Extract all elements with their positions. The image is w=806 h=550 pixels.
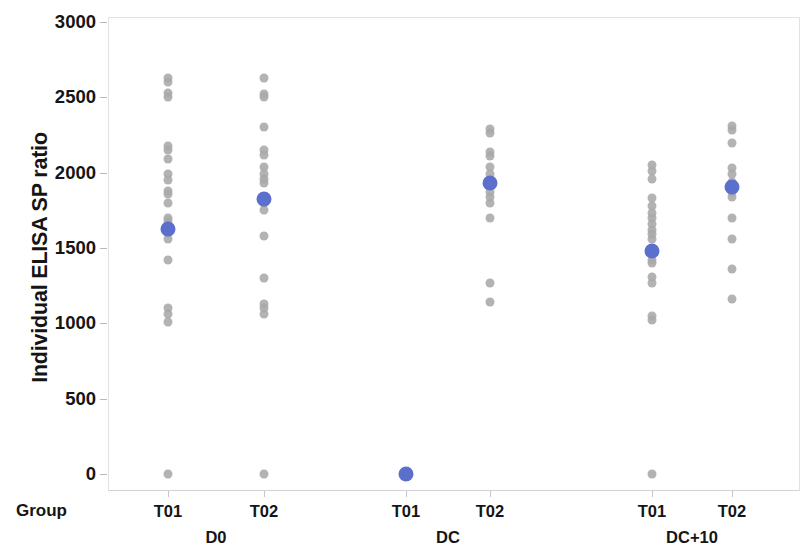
x-axis-group-label: DC+10 (666, 528, 718, 547)
x-axis-tick-label: T01 (638, 502, 666, 521)
x-axis-tick-mark (490, 491, 491, 497)
data-point-individual (164, 470, 173, 479)
y-axis-tick-label: 3000 (6, 11, 96, 33)
data-point-individual (260, 206, 269, 215)
data-point-individual (260, 123, 269, 132)
y-axis-tick-label: 1000 (6, 312, 96, 334)
data-point-individual (260, 470, 269, 479)
data-point-individual (648, 470, 657, 479)
data-point-mean (645, 244, 660, 259)
plot-area-frame (108, 17, 800, 491)
y-axis-tick-label: 2500 (6, 86, 96, 108)
scatter-plot-figure: Individual ELISA SP ratio 05001000150020… (0, 0, 806, 550)
y-axis-tick-mark (100, 22, 107, 23)
data-point-individual (648, 316, 657, 325)
x-axis-group-label: D0 (205, 528, 226, 547)
data-point-individual (648, 259, 657, 268)
y-axis-tick-label: 1500 (6, 237, 96, 259)
y-axis-tick-mark (100, 248, 107, 249)
data-point-individual (164, 317, 173, 326)
y-axis-tick-mark (100, 323, 107, 324)
data-point-individual (164, 256, 173, 265)
x-axis-tick-label: T02 (476, 502, 504, 521)
x-axis-tick-mark (168, 491, 169, 497)
y-axis-tick-mark (100, 97, 107, 98)
data-point-individual (728, 234, 737, 243)
data-point-individual (648, 234, 657, 243)
data-point-individual (260, 231, 269, 240)
data-point-individual (728, 213, 737, 222)
x-axis-tick-mark (732, 491, 733, 497)
data-point-individual (728, 138, 737, 147)
data-point-individual (486, 278, 495, 287)
x-axis-tick-label: T02 (718, 502, 746, 521)
y-axis-tick-mark (100, 474, 107, 475)
data-point-individual (486, 152, 495, 161)
data-point-individual (260, 179, 269, 188)
data-point-individual (260, 310, 269, 319)
data-point-individual (164, 146, 173, 155)
data-point-mean (257, 192, 272, 207)
data-point-individual (728, 126, 737, 135)
data-point-individual (728, 265, 737, 274)
data-point-individual (260, 93, 269, 102)
y-axis-tick-mark (100, 173, 107, 174)
y-axis-tick-label: 0 (6, 463, 96, 485)
y-axis-tick-label: 2000 (6, 162, 96, 184)
data-point-individual (648, 278, 657, 287)
data-point-mean (161, 221, 176, 236)
y-axis-tick-label: 500 (6, 388, 96, 410)
data-point-mean (483, 176, 498, 191)
data-point-individual (728, 295, 737, 304)
data-point-individual (648, 174, 657, 183)
data-point-individual (164, 189, 173, 198)
x-axis-group-label: DC (436, 528, 460, 547)
data-point-individual (260, 274, 269, 283)
axis-row-label-group: Group (16, 501, 67, 521)
x-axis-tick-label: T01 (392, 502, 420, 521)
data-point-individual (164, 78, 173, 87)
x-axis-tick-label: T02 (250, 502, 278, 521)
data-point-individual (486, 298, 495, 307)
x-axis-tick-label: T01 (154, 502, 182, 521)
data-point-individual (260, 150, 269, 159)
data-point-mean (399, 467, 414, 482)
data-point-individual (486, 198, 495, 207)
data-point-individual (164, 93, 173, 102)
y-axis-tick-mark (100, 399, 107, 400)
x-axis-tick-mark (406, 491, 407, 497)
data-point-mean (725, 179, 740, 194)
data-point-individual (486, 129, 495, 138)
data-point-individual (486, 213, 495, 222)
data-point-individual (164, 176, 173, 185)
x-axis-tick-mark (652, 491, 653, 497)
data-point-individual (164, 155, 173, 164)
data-point-individual (164, 198, 173, 207)
x-axis-tick-mark (264, 491, 265, 497)
data-point-individual (260, 73, 269, 82)
